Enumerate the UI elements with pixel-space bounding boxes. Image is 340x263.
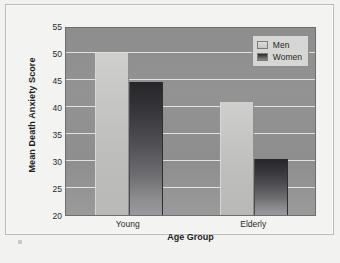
legend-swatch-women-icon (257, 53, 268, 61)
figure-frame: Mean Death Anxiety Score 202530354045505… (5, 4, 334, 235)
legend-label-men: Men (273, 40, 290, 50)
scan-artifact-mark (18, 240, 22, 244)
y-axis-tick-label: 50 (38, 49, 62, 59)
legend-swatch-men-icon (257, 41, 268, 49)
plot-area: Men Women (65, 27, 316, 216)
y-axis-tick-labels: 2025303540455055 (38, 27, 62, 216)
y-axis-tick-label: 30 (38, 157, 62, 167)
y-axis-tick-label: 20 (38, 211, 62, 221)
bar-men-young (95, 53, 129, 215)
legend-item-women: Women (257, 51, 302, 63)
y-axis-tick-label: 45 (38, 76, 62, 86)
legend: Men Women (252, 35, 309, 67)
x-axis-tick-label-elderly: Elderly (240, 219, 266, 229)
figure-page: Mean Death Anxiety Score 202530354045505… (0, 0, 340, 263)
y-axis-tick-label: 40 (38, 103, 62, 113)
bar-women-young (129, 82, 163, 215)
x-axis-tick-label-young: Young (116, 219, 140, 229)
bar-men-elderly (220, 102, 254, 215)
y-axis-tick-label: 55 (38, 22, 62, 32)
x-axis-title: Age Group (65, 232, 316, 242)
legend-label-women: Women (273, 52, 302, 62)
legend-item-men: Men (257, 39, 302, 51)
bar-women-elderly (254, 159, 288, 215)
y-axis-tick-label: 35 (38, 130, 62, 140)
y-axis-tick-label: 25 (38, 184, 62, 194)
y-axis-title: Mean Death Anxiety Score (27, 40, 37, 190)
